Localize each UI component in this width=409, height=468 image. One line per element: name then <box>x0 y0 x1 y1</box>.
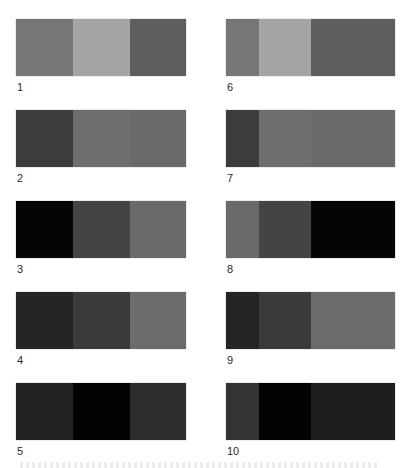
swatch-label: 3 <box>17 263 23 275</box>
swatch-strip-5 <box>16 383 186 440</box>
swatch-segment <box>311 19 395 76</box>
swatch-segment <box>259 110 311 167</box>
swatch-label: 7 <box>227 172 233 184</box>
swatch-segment <box>226 19 259 76</box>
swatch-strip-2 <box>16 110 186 167</box>
swatch-segment <box>259 201 311 258</box>
swatch-segment <box>16 19 73 76</box>
swatch-label: 2 <box>17 172 23 184</box>
swatch-strip-1 <box>16 19 186 76</box>
swatch-label: 8 <box>227 263 233 275</box>
swatch-segment <box>311 383 395 440</box>
swatch-segment <box>259 383 311 440</box>
swatch-segment <box>73 292 130 349</box>
swatch-strip-4 <box>16 292 186 349</box>
swatch-strip-9 <box>226 292 395 349</box>
swatch-segment <box>73 201 130 258</box>
swatch-strip-8 <box>226 201 395 258</box>
swatch-segment <box>73 383 130 440</box>
swatch-segment <box>226 201 259 258</box>
swatch-strip-3 <box>16 201 186 258</box>
swatch-segment <box>130 383 186 440</box>
swatch-label: 4 <box>17 354 23 366</box>
swatch-segment <box>226 110 259 167</box>
swatch-segment <box>16 383 73 440</box>
swatch-segment <box>73 19 130 76</box>
swatch-segment <box>130 110 186 167</box>
swatch-segment <box>16 110 73 167</box>
swatch-segment <box>259 292 311 349</box>
swatch-strip-10 <box>226 383 395 440</box>
swatch-segment <box>226 292 259 349</box>
swatch-segment <box>130 201 186 258</box>
swatch-segment <box>130 292 186 349</box>
swatch-segment <box>311 110 395 167</box>
swatch-segment <box>16 292 73 349</box>
swatch-segment <box>73 110 130 167</box>
swatch-label: 10 <box>227 445 239 457</box>
swatch-segment <box>16 201 73 258</box>
swatch-segment <box>226 383 259 440</box>
swatch-segment <box>130 19 186 76</box>
swatch-label: 6 <box>227 81 233 93</box>
swatch-label: 1 <box>17 81 23 93</box>
swatch-segment <box>311 201 395 258</box>
swatch-label: 9 <box>227 354 233 366</box>
swatch-label: 5 <box>17 445 23 457</box>
swatch-segment <box>259 19 311 76</box>
swatch-strip-6 <box>226 19 395 76</box>
bleed-through-text <box>20 462 380 468</box>
swatch-strip-7 <box>226 110 395 167</box>
swatch-segment <box>311 292 395 349</box>
